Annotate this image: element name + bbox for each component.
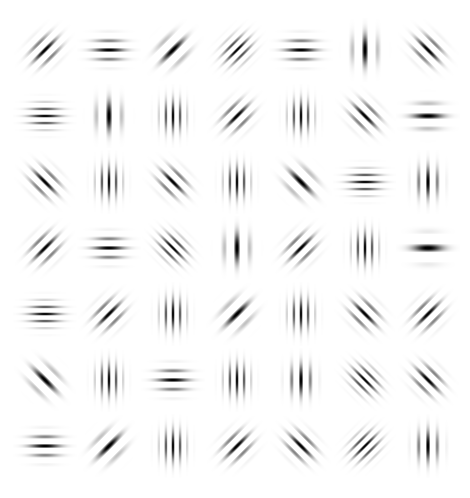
gabor-canvas [141, 150, 205, 214]
gabor-patch [205, 282, 269, 346]
gabor-canvas [396, 282, 460, 346]
gabor-patch [141, 348, 205, 412]
gabor-patch [205, 18, 269, 82]
gabor-canvas [269, 216, 333, 280]
gabor-patch [13, 216, 77, 280]
gabor-patch [269, 348, 333, 412]
gabor-patch [77, 216, 141, 280]
gabor-patch [205, 414, 269, 478]
gabor-patch [77, 18, 141, 82]
gabor-canvas [333, 414, 397, 478]
gabor-canvas [13, 414, 77, 478]
gabor-patch [13, 348, 77, 412]
gabor-canvas [205, 348, 269, 412]
gabor-patch [205, 150, 269, 214]
gabor-patch [333, 18, 397, 82]
gabor-patch [333, 150, 397, 214]
gabor-canvas [205, 282, 269, 346]
gabor-canvas [77, 84, 141, 148]
gabor-patch [77, 414, 141, 478]
gabor-canvas [77, 282, 141, 346]
gabor-patch [396, 18, 460, 82]
gabor-patch [269, 150, 333, 214]
gabor-canvas [269, 84, 333, 148]
gabor-patch [205, 84, 269, 148]
gabor-canvas [77, 348, 141, 412]
gabor-patch [269, 18, 333, 82]
gabor-canvas [269, 414, 333, 478]
gabor-patch [269, 84, 333, 148]
gabor-patch [141, 414, 205, 478]
gabor-canvas [333, 348, 397, 412]
gabor-patch [333, 348, 397, 412]
gabor-canvas [13, 282, 77, 346]
gabor-patch [396, 150, 460, 214]
gabor-canvas [141, 18, 205, 82]
gabor-patch [269, 216, 333, 280]
gabor-canvas [205, 84, 269, 148]
gabor-canvas [333, 84, 397, 148]
gabor-canvas [77, 414, 141, 478]
gabor-patch [13, 150, 77, 214]
gabor-patch [141, 150, 205, 214]
gabor-canvas [205, 18, 269, 82]
gabor-patch [396, 282, 460, 346]
gabor-canvas [205, 414, 269, 478]
gabor-canvas [396, 348, 460, 412]
gabor-grid [0, 0, 470, 498]
gabor-canvas [13, 348, 77, 412]
gabor-patch [396, 414, 460, 478]
gabor-canvas [13, 18, 77, 82]
gabor-patch [77, 348, 141, 412]
gabor-canvas [77, 216, 141, 280]
gabor-canvas [269, 150, 333, 214]
gabor-canvas [269, 282, 333, 346]
gabor-patch [141, 18, 205, 82]
gabor-canvas [205, 216, 269, 280]
gabor-canvas [333, 282, 397, 346]
gabor-canvas [13, 216, 77, 280]
gabor-patch [396, 348, 460, 412]
gabor-canvas [77, 150, 141, 214]
gabor-canvas [396, 150, 460, 214]
gabor-patch [77, 84, 141, 148]
gabor-canvas [333, 150, 397, 214]
gabor-patch [77, 282, 141, 346]
gabor-patch [141, 282, 205, 346]
gabor-patch [205, 216, 269, 280]
gabor-patch [269, 282, 333, 346]
gabor-canvas [77, 18, 141, 82]
gabor-canvas [141, 348, 205, 412]
gabor-patch [77, 150, 141, 214]
gabor-patch [333, 216, 397, 280]
gabor-canvas [141, 216, 205, 280]
gabor-patch [13, 18, 77, 82]
gabor-canvas [141, 414, 205, 478]
gabor-canvas [269, 348, 333, 412]
gabor-patch [333, 282, 397, 346]
gabor-patch [13, 84, 77, 148]
gabor-patch [13, 414, 77, 478]
gabor-canvas [141, 282, 205, 346]
gabor-canvas [269, 18, 333, 82]
gabor-patch [396, 84, 460, 148]
gabor-patch [141, 84, 205, 148]
gabor-patch [333, 84, 397, 148]
gabor-canvas [333, 18, 397, 82]
gabor-canvas [333, 216, 397, 280]
gabor-patch [396, 216, 460, 280]
gabor-patch [13, 282, 77, 346]
gabor-canvas [13, 150, 77, 214]
gabor-patch [205, 348, 269, 412]
gabor-patch [333, 414, 397, 478]
gabor-canvas [396, 18, 460, 82]
gabor-patch [269, 414, 333, 478]
gabor-canvas [205, 150, 269, 214]
gabor-canvas [396, 216, 460, 280]
gabor-canvas [13, 84, 77, 148]
gabor-canvas [396, 414, 460, 478]
gabor-patch [141, 216, 205, 280]
gabor-canvas [141, 84, 205, 148]
gabor-canvas [396, 84, 460, 148]
